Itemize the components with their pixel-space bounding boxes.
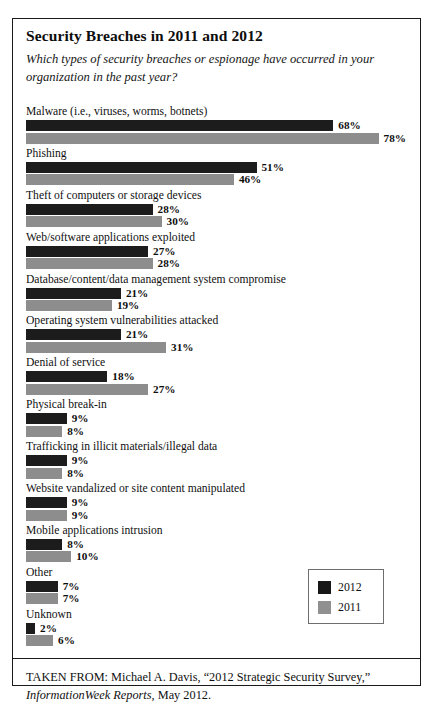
bar-value-label-2011: 19% [117,299,139,311]
bar-2012 [26,288,121,299]
bar-2012 [26,539,62,550]
bar-2012 [26,623,35,634]
legend-label-2012: 2012 [338,580,362,595]
bar-group: Operating system vulnerabilities attacke… [26,314,409,356]
bar-category-label: Trafficking in illicit materials/illegal… [26,440,217,454]
bar-category-label: Physical break-in [26,398,107,412]
chart-subtitle: Which types of security breaches or espi… [26,51,398,87]
bar-value-label-2012: 8% [67,538,84,550]
bar-value-label-2011: 46% [239,173,261,185]
bar-category-label: Web/software applications exploited [26,231,195,245]
bar-2011 [26,300,112,311]
bar-2012 [26,120,333,131]
bar-2011 [26,426,62,437]
bar-value-label-2012: 2% [40,622,57,634]
bar-category-label: Unknown [26,608,72,622]
bar-value-label-2012: 7% [63,580,80,592]
figure-panel: Security Breaches in 2011 and 2012 Which… [12,18,421,686]
bar-2012 [26,413,67,424]
bar-value-label-2011: 6% [58,634,75,646]
bar-category-label: Mobile applications intrusion [26,524,163,538]
bar-value-label-2012: 21% [126,328,148,340]
bar-value-label-2011: 9% [72,509,89,521]
bar-value-label-2011: 10% [76,550,98,562]
bar-value-label-2012: 27% [153,245,175,257]
legend-swatch-2012 [318,581,331,594]
bar-value-label-2011: 8% [67,425,84,437]
bar-category-label: Malware (i.e., viruses, worms, botnets) [26,105,207,119]
bar-group: Malware (i.e., viruses, worms, botnets)6… [26,105,409,147]
bar-2012 [26,204,153,215]
bar-2011 [26,342,166,353]
chart-legend: 2012 2011 [308,569,384,624]
bar-value-label-2012: 21% [126,287,148,299]
bar-category-label: Phishing [26,147,67,161]
bar-2012 [26,162,257,173]
bar-value-label-2011: 27% [153,383,175,395]
bar-group: Theft of computers or storage devices28%… [26,189,409,231]
bar-category-label: Operating system vulnerabilities attacke… [26,314,218,328]
bar-value-label-2012: 9% [72,496,89,508]
source-prefix: TAKEN FROM: Michael A. Davis, “2012 Stra… [26,670,370,684]
bar-value-label-2012: 51% [262,161,284,173]
bar-category-label: Denial of service [26,356,105,370]
source-publication: InformationWeek Reports [26,688,152,702]
bar-category-label: Theft of computers or storage devices [26,189,201,203]
bar-value-label-2011: 7% [63,592,80,604]
bar-2012 [26,329,121,340]
bar-group: Web/software applications exploited27%28… [26,231,409,273]
bar-value-label-2011: 28% [158,257,180,269]
bar-value-label-2012: 9% [72,454,89,466]
bar-value-label-2011: 8% [67,467,84,479]
bar-group: Website vandalized or site content manip… [26,482,409,524]
bar-value-label-2012: 28% [158,203,180,215]
bar-2012 [26,371,107,382]
bar-2011 [26,258,153,269]
legend-label-2011: 2011 [338,600,361,615]
bar-group: Trafficking in illicit materials/illegal… [26,440,409,482]
bar-2011 [26,510,67,521]
bar-value-label-2011: 30% [167,215,189,227]
bar-group: Mobile applications intrusion8%10% [26,524,409,566]
bar-category-label: Website vandalized or site content manip… [26,482,245,496]
bar-category-label: Database/content/data management system … [26,273,286,287]
bar-group: Phishing51%46% [26,147,409,189]
source-citation: TAKEN FROM: Michael A. Davis, “2012 Stra… [26,669,401,705]
chart-title: Security Breaches in 2011 and 2012 [26,27,263,45]
bar-value-label-2012: 18% [112,370,134,382]
footer-divider [13,658,420,659]
bar-group: Database/content/data management system … [26,273,409,315]
source-suffix: , May 2012. [152,688,211,702]
bar-2011 [26,216,162,227]
bar-2012 [26,581,58,592]
bar-group: Denial of service18%27% [26,356,409,398]
bar-2011 [26,384,148,395]
bar-2011 [26,174,234,185]
bar-2011 [26,635,53,646]
bar-2011 [26,551,71,562]
legend-swatch-2011 [318,601,331,614]
bar-2012 [26,497,67,508]
bar-2012 [26,246,148,257]
bar-value-label-2012: 68% [338,119,360,131]
bar-value-label-2011: 31% [171,341,193,353]
bar-2011 [26,468,62,479]
bar-2011 [26,133,379,144]
bar-category-label: Other [26,566,52,580]
bar-group: Physical break-in9%8% [26,398,409,440]
bar-2011 [26,593,58,604]
bar-chart-plot: Malware (i.e., viruses, worms, botnets)6… [26,105,409,650]
bar-2012 [26,455,67,466]
bar-value-label-2011: 78% [384,132,406,144]
bar-value-label-2012: 9% [72,412,89,424]
